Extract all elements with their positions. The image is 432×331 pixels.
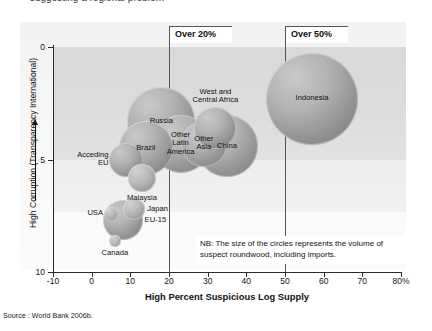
x-tick-label: 60 [306, 276, 342, 286]
x-tick-label: 0 [74, 276, 110, 286]
y-tick-mark [48, 47, 53, 48]
source-note: Source : World Bank 2006b. [3, 311, 93, 320]
x-tick-label: 20 [151, 276, 187, 286]
x-tick-label: -10 [35, 276, 71, 286]
x-tick-label: 30 [190, 276, 226, 286]
y-tick-mark [48, 160, 53, 161]
bubble-usa[interactable] [104, 207, 118, 221]
threshold-label: Over 50% [285, 26, 348, 43]
bubble-malaysia[interactable] [128, 164, 156, 192]
x-axis-title: High Percent Suspicious Log Supply [53, 291, 401, 302]
x-tick-label: 70 [344, 276, 380, 286]
y-axis-title: High Corruption (Transparency Internatio… [28, 48, 38, 238]
x-tick-label: 10 [112, 276, 148, 286]
clipped-top-text: suggesting a regional problem [0, 0, 432, 8]
bubble-canada[interactable] [109, 235, 121, 247]
x-tick-label: 80% [383, 276, 419, 286]
x-tick-label: 50 [267, 276, 303, 286]
threshold-label: Over 20% [169, 26, 232, 43]
x-tick-label: 40 [228, 276, 264, 286]
nb-note: NB: The size of the circles represents t… [196, 236, 410, 264]
x-axis-line [53, 272, 401, 273]
y-axis-line [53, 45, 54, 273]
bubble-indonesia[interactable] [266, 53, 358, 145]
figure-root: suggesting a regional problem 0510-10010… [0, 0, 432, 331]
